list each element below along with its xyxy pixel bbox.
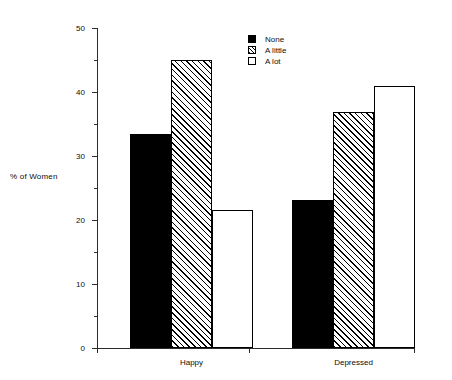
bar-depressed-a-lot — [374, 86, 415, 348]
x-group-label-depressed: Depressed — [334, 358, 373, 367]
legend-label-a-lot: A lot — [265, 57, 281, 66]
y-axis-title: % of Women — [10, 172, 90, 181]
y-minor-tick-25 — [94, 188, 97, 189]
y-tick-label-0: 0 — [81, 344, 85, 353]
bar-happy-none — [130, 134, 171, 348]
solid-black-swatch — [248, 35, 256, 43]
x-axis-line — [97, 348, 415, 349]
legend: NoneA littleA lot — [248, 34, 286, 67]
legend-label-none: None — [265, 35, 284, 44]
y-minor-tick-45 — [94, 60, 97, 61]
bar-happy-a-little — [171, 60, 212, 348]
legend-item-none: None — [248, 34, 286, 44]
bar-depressed-none — [292, 200, 333, 348]
legend-item-a-lot: A lot — [248, 56, 286, 66]
x-tick-2 — [414, 348, 415, 353]
y-tick-label-30: 30 — [76, 152, 85, 161]
legend-item-a-little: A little — [248, 45, 286, 55]
y-tick-50: 50 — [92, 28, 97, 29]
plot-area: 01020304050 HappyDepressed — [97, 28, 415, 348]
x-tick-0 — [97, 348, 98, 353]
y-tick-label-20: 20 — [76, 216, 85, 225]
y-tick-label-10: 10 — [76, 280, 85, 289]
y-minor-tick-35 — [94, 124, 97, 125]
y-tick-label-50: 50 — [76, 24, 85, 33]
bar-happy-a-lot — [212, 210, 253, 348]
x-group-label-happy: Happy — [180, 358, 203, 367]
y-axis-line — [97, 28, 98, 348]
y-minor-tick-5 — [94, 316, 97, 317]
x-tick-1 — [249, 348, 250, 353]
y-tick-20: 20 — [92, 220, 97, 221]
y-tick-label-40: 40 — [76, 88, 85, 97]
y-tick-10: 10 — [92, 284, 97, 285]
bar-chart: % of Women 01020304050 HappyDepressed No… — [0, 0, 452, 380]
y-tick-40: 40 — [92, 92, 97, 93]
y-minor-tick-15 — [94, 252, 97, 253]
hatched-swatch — [248, 46, 256, 54]
y-tick-30: 30 — [92, 156, 97, 157]
bar-depressed-a-little — [333, 112, 374, 348]
white-swatch — [248, 57, 256, 65]
legend-label-a-little: A little — [265, 46, 286, 55]
